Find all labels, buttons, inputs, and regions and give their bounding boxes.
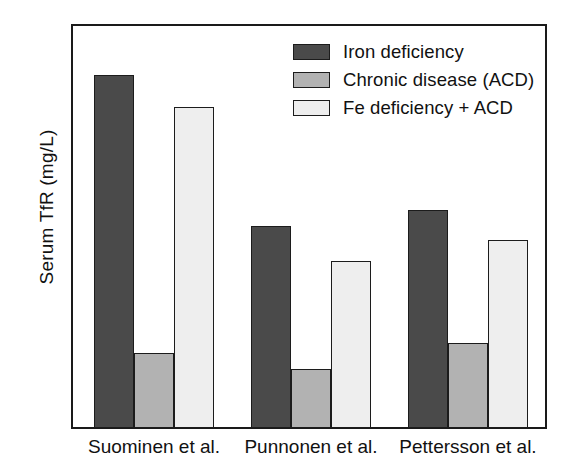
x-group-label-2: Pettersson et al. — [378, 436, 558, 458]
bar-2-1 — [448, 343, 488, 428]
legend-item-1: Chronic disease (ACD) — [293, 66, 543, 93]
bar-chart-figure: Serum TfR (mg/L) 12 8 4 0 Suominen et al… — [0, 0, 574, 475]
bar-0-1 — [134, 353, 174, 428]
bar-2-2 — [488, 240, 528, 428]
legend-item-0: Iron deficiency — [293, 38, 543, 65]
legend-swatch-fe-plus-acd — [293, 100, 330, 116]
bar-2-0 — [408, 210, 448, 428]
legend-swatch-iron-deficiency — [293, 44, 330, 60]
bar-1-2 — [331, 261, 371, 428]
legend-swatch-chronic-disease — [293, 72, 330, 88]
y-axis-title: Serum TfR (mg/L) — [36, 92, 58, 322]
legend-label-0: Iron deficiency — [343, 41, 464, 63]
bar-1-0 — [251, 226, 291, 428]
bar-1-1 — [291, 369, 331, 428]
legend-item-2: Fe deficiency + ACD — [293, 94, 543, 121]
legend-label-2: Fe deficiency + ACD — [343, 97, 513, 119]
bar-0-0 — [94, 75, 134, 428]
legend-label-1: Chronic disease (ACD) — [343, 69, 534, 91]
x-group-label-1: Punnonen et al. — [221, 436, 401, 458]
bar-0-2 — [174, 107, 214, 428]
x-group-label-0: Suominen et al. — [64, 436, 244, 458]
legend: Iron deficiency Chronic disease (ACD) Fe… — [293, 38, 543, 122]
